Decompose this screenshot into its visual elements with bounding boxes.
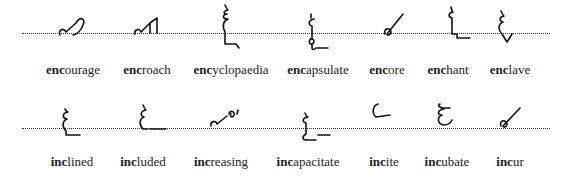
row-enc-words: encourage encroach encyclopaedia encapsu…	[0, 0, 573, 90]
word-label: encapsulate	[287, 62, 348, 78]
dotted-writing-line	[22, 128, 550, 129]
word-label: incur	[496, 154, 523, 170]
shorthand-outline-enclave-icon	[492, 8, 527, 46]
word-label: enchant	[427, 62, 468, 78]
word-label: included	[120, 154, 166, 170]
shorthand-outline-inclined-icon	[58, 106, 93, 138]
shorthand-outline-encyclopaedia-icon	[214, 2, 254, 50]
word-label: encroach	[123, 62, 171, 78]
word-label: increasing	[194, 154, 248, 170]
shorthand-outline-incubate-icon	[432, 100, 467, 132]
word-label: incapacitate	[277, 154, 340, 170]
shorthand-outline-enchant-icon	[440, 4, 480, 44]
word-label: incite	[369, 154, 399, 170]
shorthand-outline-encapsulate-icon	[300, 12, 340, 54]
word-label: enclave	[490, 62, 530, 78]
word-label: inclined	[51, 154, 94, 170]
shorthand-outline-encroach-icon	[130, 10, 165, 40]
word-label: encyclopaedia	[193, 62, 268, 78]
word-label: encourage	[46, 62, 100, 78]
row-inc-words: inclined included increasing incapacitat…	[0, 92, 573, 180]
shorthand-outline-incapacitate-icon	[296, 110, 338, 144]
word-label: incubate	[425, 154, 470, 170]
shorthand-outline-encourage-icon	[52, 10, 92, 40]
shorthand-outline-included-icon	[132, 102, 172, 134]
shorthand-outline-incite-icon	[368, 100, 403, 125]
shorthand-outline-increasing-icon	[207, 104, 247, 132]
word-label: encore	[369, 62, 404, 78]
shorthand-outline-incur-icon	[496, 102, 531, 130]
shorthand-outline-encore-icon	[379, 10, 414, 40]
